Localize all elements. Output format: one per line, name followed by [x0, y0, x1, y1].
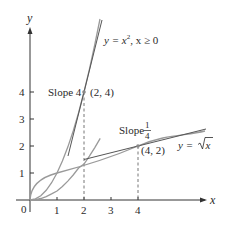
sqrt-label-radicand: x [205, 139, 211, 151]
y-tick-label-1: 1 [19, 167, 25, 179]
y-tick-label-4: 4 [19, 86, 25, 98]
x-tick-label-1: 1 [54, 204, 60, 216]
x-axis-label: x [209, 193, 216, 207]
parabola-curve-upper [57, 92, 84, 173]
point-2-4 [82, 90, 86, 94]
sqrt-label: y = x [177, 138, 213, 152]
x-axis-arrow-icon [200, 198, 207, 203]
origin-label: 0 [21, 203, 27, 215]
slope-quarter-prefix: Slope [119, 124, 144, 136]
function-graph: 0 1 2 3 4 1 2 3 4 x y y = x2, x ≥ 0 y = … [0, 0, 225, 229]
point-4-2-label: (4, 2) [141, 144, 165, 157]
sqrt-label-prefix: y = [177, 139, 193, 151]
point-4-2 [136, 144, 140, 148]
square-root-curve [30, 169, 57, 201]
parabola-curve-line [30, 19, 100, 200]
y-axis-label: y [26, 11, 33, 25]
slope-quarter-label: Slope 1 4 [119, 120, 151, 141]
slope-quarter-denominator: 4 [145, 131, 150, 141]
y-tick-label-3: 3 [19, 113, 25, 125]
slope-4-label: Slope 4 [48, 86, 82, 98]
parabola-label: y = x2, x ≥ 0 [103, 33, 159, 46]
x-tick-label-4: 4 [135, 204, 141, 216]
x-tick-label-2: 2 [81, 204, 87, 216]
x-tick-label-3: 3 [108, 204, 114, 216]
sqrt-curve [30, 167, 57, 200]
parabola-curve [30, 138, 100, 200]
y-tick-label-2: 2 [19, 140, 25, 152]
y-axis-arrow-icon [28, 27, 33, 34]
slope-quarter-numerator: 1 [145, 120, 150, 130]
point-2-4-label: (2, 4) [90, 86, 114, 99]
